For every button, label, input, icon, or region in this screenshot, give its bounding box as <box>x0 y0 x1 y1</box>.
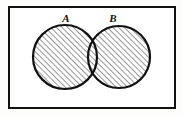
venn-diagram-figure: A B <box>0 0 183 117</box>
set-a-label: A <box>61 12 69 24</box>
set-b-label: B <box>108 12 116 24</box>
venn-diagram-canvas: A B <box>0 0 183 117</box>
